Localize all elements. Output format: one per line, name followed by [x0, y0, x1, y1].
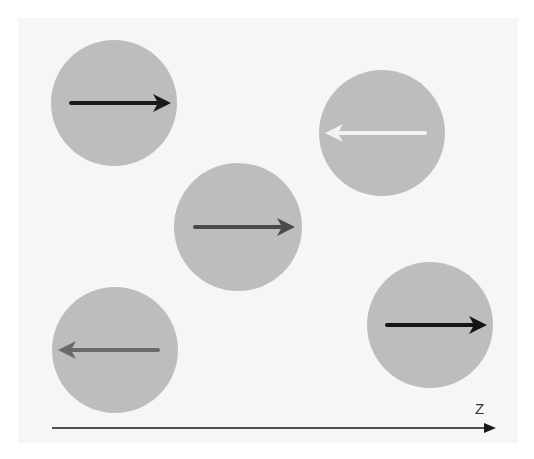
- particle: [51, 40, 177, 166]
- z-axis-arrowhead-icon: [484, 423, 496, 433]
- particle: [319, 70, 445, 196]
- particle: [52, 287, 178, 413]
- z-axis: [52, 423, 496, 433]
- particle-diagram: [0, 0, 534, 459]
- particle: [367, 262, 493, 388]
- particle: [174, 163, 302, 291]
- z-axis-label: Z: [475, 400, 484, 417]
